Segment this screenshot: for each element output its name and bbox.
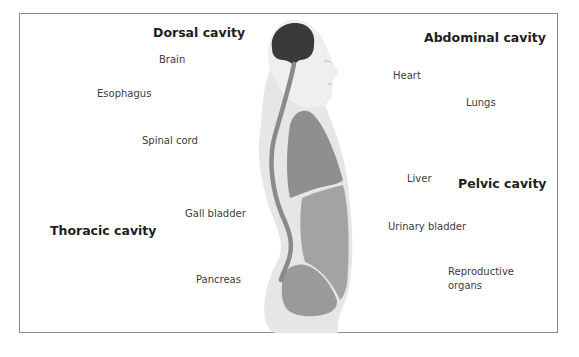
label-urinary-bladder: Urinary bladder bbox=[388, 221, 466, 233]
label-spinal-cord: Spinal cord bbox=[142, 135, 198, 147]
heading-dorsal-cavity: Dorsal cavity bbox=[153, 25, 245, 40]
label-heart: Heart bbox=[393, 70, 421, 82]
heading-pelvic-cavity: Pelvic cavity bbox=[458, 176, 547, 191]
label-pancreas: Pancreas bbox=[196, 274, 241, 286]
label-reproductive: Reproductive bbox=[448, 266, 514, 278]
label-organs: organs bbox=[448, 280, 482, 292]
label-gall-bladder: Gall bladder bbox=[185, 208, 246, 220]
label-esophagus: Esophagus bbox=[97, 88, 151, 100]
heading-abdominal-cavity: Abdominal cavity bbox=[424, 30, 546, 45]
label-liver: Liver bbox=[407, 173, 432, 185]
label-brain: Brain bbox=[159, 54, 185, 66]
label-lungs: Lungs bbox=[466, 97, 496, 109]
heading-thoracic-cavity: Thoracic cavity bbox=[50, 223, 156, 238]
